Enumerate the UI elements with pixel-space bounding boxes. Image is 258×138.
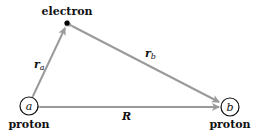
vector-rb-arrow xyxy=(72,26,219,102)
vector-rb-sub: b xyxy=(151,52,156,61)
electron-label: electron xyxy=(41,5,92,18)
proton-b-label: proton xyxy=(209,118,250,131)
proton-a-letter: a xyxy=(26,100,33,113)
proton-b-letter: b xyxy=(226,101,233,114)
electron-dot xyxy=(64,20,69,25)
vector-ra-label: ra xyxy=(34,58,45,72)
vector-ra-sub: a xyxy=(40,63,45,72)
vector-R-label: R xyxy=(122,110,131,123)
vector-rb-label: rb xyxy=(145,47,156,61)
proton-a-label: proton xyxy=(8,118,49,131)
